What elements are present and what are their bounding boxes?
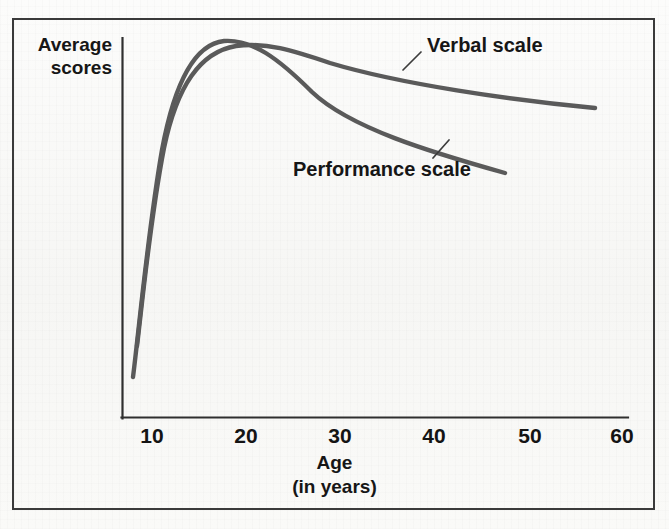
x-tick-40: 40 [406,424,462,448]
y-axis-label-line2: scores [20,56,112,79]
series-label-performance: Performance scale [293,158,471,181]
leader-line-verbal [403,52,421,70]
series-curve-verbal [137,45,595,346]
x-axis-label: Age [0,452,669,474]
x-tick-50: 50 [502,424,558,448]
plot-area [0,0,669,529]
x-tick-60: 60 [594,424,650,448]
series-label-verbal: Verbal scale [427,34,543,57]
x-tick-10: 10 [124,424,180,448]
y-axis-label: Average scores [20,33,112,79]
x-tick-30: 30 [312,424,368,448]
figure-container: Average scores 10 20 30 40 50 60 Age (in… [0,0,669,529]
x-tick-20: 20 [218,424,274,448]
y-axis-label-line1: Average [20,33,112,56]
x-axis-sublabel: (in years) [0,476,669,498]
